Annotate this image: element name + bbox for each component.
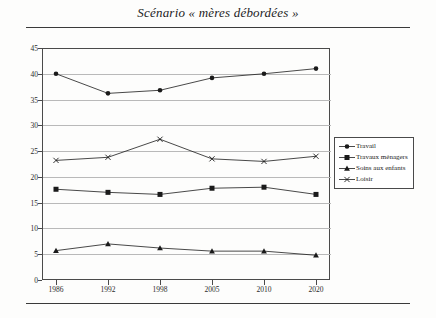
chart-series-layer xyxy=(42,48,330,280)
series-travaux-ménagers xyxy=(54,185,319,197)
x-axis-labels: 198619921998200520102020 xyxy=(42,285,330,299)
title-divider-top xyxy=(26,27,410,28)
legend-item-label: Loisir xyxy=(356,174,373,185)
series-travail xyxy=(54,66,319,95)
x-axis-tick-label: 1992 xyxy=(101,285,116,294)
legend-item-label: Travaux ménagers xyxy=(356,152,408,163)
circle-marker xyxy=(106,91,111,96)
series-line xyxy=(56,69,316,94)
square-marker xyxy=(262,185,267,190)
legend-key-x-icon xyxy=(338,174,356,185)
legend-item-label: Soins aux enfants xyxy=(356,163,405,174)
figure-page: Scénario « mères débordées » 05101520253… xyxy=(0,0,436,318)
series-line xyxy=(56,187,316,194)
square-marker xyxy=(210,186,215,191)
legend-item[interactable]: Travail xyxy=(338,141,410,152)
circle-marker xyxy=(210,76,215,81)
y-axis-ticks xyxy=(0,48,42,280)
figure-divider-bottom xyxy=(26,303,410,304)
x-axis-tick-label: 2010 xyxy=(257,285,272,294)
legend-item-label: Travail xyxy=(356,141,376,152)
triangle-marker xyxy=(105,241,111,246)
series-soins-aux-enfants xyxy=(53,241,319,258)
circle-marker xyxy=(314,66,319,71)
x-axis-tick-label: 2005 xyxy=(205,285,220,294)
circle-marker xyxy=(345,144,350,149)
circle-marker xyxy=(262,71,267,76)
x-axis-tick-label: 2020 xyxy=(309,285,324,294)
legend-key-square-icon xyxy=(338,152,356,163)
x-axis-tick-label: 1998 xyxy=(153,285,168,294)
square-marker xyxy=(54,187,59,192)
series-line xyxy=(56,244,316,255)
series-line xyxy=(56,139,316,161)
legend-item[interactable]: Travaux ménagers xyxy=(338,152,410,163)
legend-item[interactable]: Loisir xyxy=(338,174,410,185)
square-marker xyxy=(314,192,319,197)
legend-key-triangle-icon xyxy=(338,163,356,174)
series-loisir xyxy=(53,137,318,164)
legend-item[interactable]: Soins aux enfants xyxy=(338,163,410,174)
chart-legend: TravailTravaux ménagersSoins aux enfants… xyxy=(334,137,414,189)
page-title: Scénario « mères débordées » xyxy=(0,5,436,21)
square-marker xyxy=(106,190,111,195)
x-marker xyxy=(157,137,162,142)
square-marker xyxy=(158,192,163,197)
circle-marker xyxy=(158,88,163,93)
circle-marker xyxy=(54,71,59,76)
x-axis-tick-label: 1986 xyxy=(49,285,64,294)
square-marker xyxy=(345,155,350,160)
legend-key-circle-icon xyxy=(338,141,356,152)
